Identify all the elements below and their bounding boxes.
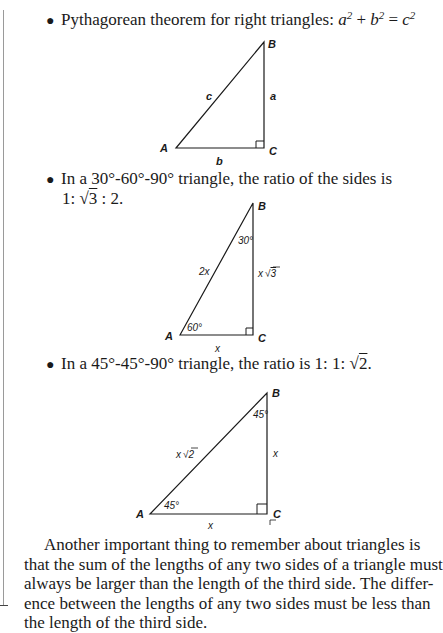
body-paragraph: Another important thing to remember abou… xyxy=(24,535,400,633)
angle-b-label: 45° xyxy=(253,409,268,420)
paragraph-line: always be larger than the length of the … xyxy=(24,574,400,594)
paragraph-line: the length of the third side. xyxy=(24,613,400,633)
vertex-c-label: C xyxy=(273,508,282,520)
vertical-side-label: x xyxy=(272,448,279,459)
base-label: x xyxy=(207,520,214,531)
vertex-b-label: B xyxy=(272,387,280,399)
vertex-a-label: A xyxy=(135,508,144,520)
hypotenuse-label: x√2 xyxy=(175,449,195,460)
paragraph-line: that the sum of the lengths of any two s… xyxy=(24,555,400,575)
paragraph-line: ence between the lengths of any two side… xyxy=(24,594,400,614)
paragraph-line: Another important thing to remember abou… xyxy=(24,535,400,555)
angle-a-label: 45° xyxy=(164,500,179,511)
